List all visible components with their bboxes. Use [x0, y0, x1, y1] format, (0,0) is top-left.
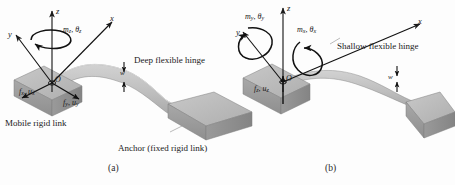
axis-label-x-b: x	[418, 17, 422, 26]
disp-uz-subscript-b: z	[267, 87, 269, 93]
comma-3-b: ,	[259, 84, 261, 93]
disp-uy-subscript-a: y	[76, 101, 79, 107]
deep-flexible-hinge-label: Deep flexible hinge	[134, 56, 205, 65]
axis-label-y-b: y	[236, 28, 240, 37]
force-fy-label-a: fy, uy	[63, 99, 79, 107]
force-fz-label-b: fz, uz	[254, 85, 269, 93]
origin-label-b: O	[286, 75, 292, 83]
moment-my-label-b: my, θy	[245, 13, 264, 21]
disp-ux-subscript-a: x	[32, 90, 35, 96]
figure-container: z x y O mz, θz fx, ux fy, uy w Deep flex…	[0, 0, 455, 185]
comma-2-a: ,	[24, 87, 26, 96]
anchor-fixed-rigid-link-label: Anchor (fixed rigid link)	[118, 144, 207, 153]
origin-label-a: O	[55, 76, 61, 84]
theta-x-subscript-b: x	[313, 28, 316, 34]
axis-label-z-a: z	[56, 7, 59, 16]
panel-caption-a: (a)	[108, 164, 119, 174]
mobile-rigid-link-label-a: Mobile rigid link	[5, 119, 67, 128]
comma-1-a: ,	[71, 25, 73, 34]
moment-mx-label-b: mx, θx	[297, 26, 316, 34]
shallow-flexible-hinge-label: Shallow flexible hinge	[337, 42, 418, 51]
moment-x-arrow-b	[293, 42, 322, 75]
axis-label-x-a: x	[110, 14, 114, 23]
anchor-leader-a	[170, 126, 182, 132]
comma-3-a: ,	[68, 98, 70, 107]
axis-label-y-a: y	[8, 30, 12, 39]
panel-b-graphics	[239, 8, 455, 138]
anchor-block-a	[168, 92, 252, 140]
moment-mz-label-a: mz, θz	[63, 26, 81, 34]
theta-z-subscript-a: z	[79, 28, 81, 34]
theta-y-subscript-b: y	[261, 15, 264, 21]
force-fx-label-a: fx, ux	[19, 88, 35, 96]
axis-label-z-b: z	[287, 4, 290, 13]
comma-1-b: ,	[253, 12, 255, 21]
panel-caption-b: (b)	[325, 164, 336, 174]
comma-2-b: ,	[305, 25, 307, 34]
w-dimension-label-b: w	[388, 74, 393, 81]
anchor-block-b	[406, 92, 455, 138]
w-dimension-label-a: w	[120, 70, 125, 77]
